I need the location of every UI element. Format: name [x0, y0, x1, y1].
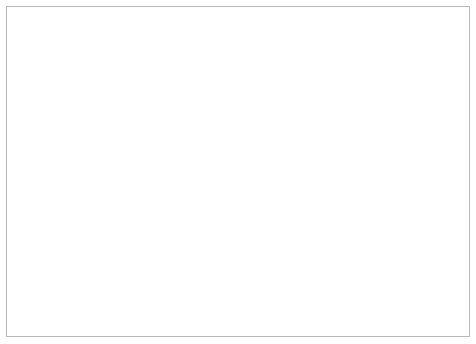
chart-frame: [6, 6, 470, 337]
chart-container: 0102030405060702003200420052006200720082…: [0, 0, 476, 344]
